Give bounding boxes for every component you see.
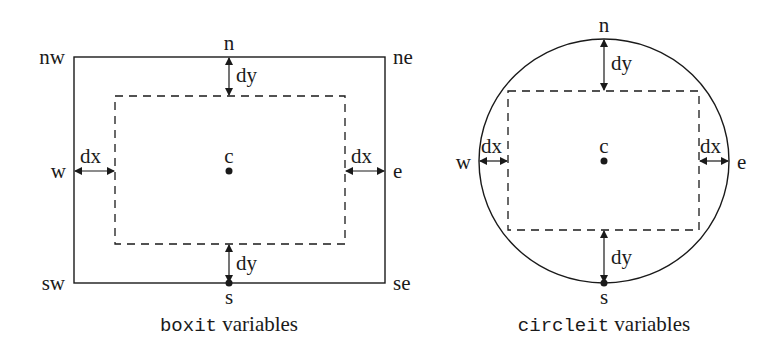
circleit-dx-right-label: dx — [700, 134, 722, 158]
boxit-caption-code: boxit — [160, 315, 217, 337]
circleit-caption-text: variables — [609, 312, 690, 336]
circleit-s-label: s — [600, 285, 608, 309]
circleit-n-label: n — [599, 13, 610, 37]
circleit-diagram: dy dy dx dx c n s w e circleit variables — [456, 13, 747, 337]
boxit-caption-text: variables — [217, 312, 298, 336]
boxit-dy-top-label: dy — [236, 63, 258, 87]
circleit-caption-code: circleit — [518, 315, 609, 337]
boxit-dy-bottom-label: dy — [236, 251, 258, 275]
circleit-dx-left-label: dx — [481, 134, 503, 158]
diagram-canvas: dy dy dx dx c n s w e nw ne sw se boxit … — [0, 0, 778, 355]
boxit-e-label: e — [393, 159, 402, 183]
boxit-w-label: w — [51, 159, 67, 183]
boxit-diagram: dy dy dx dx c n s w e nw ne sw se boxit … — [39, 31, 413, 337]
boxit-center-dot — [226, 168, 233, 175]
boxit-dx-left-label: dx — [80, 144, 102, 168]
circleit-e-label: e — [737, 150, 746, 174]
boxit-caption: boxit variables — [160, 312, 298, 337]
boxit-se-label: se — [393, 271, 411, 295]
circleit-caption: circleit variables — [518, 312, 690, 337]
boxit-s-label: s — [225, 285, 233, 309]
circleit-w-label: w — [456, 150, 472, 174]
circleit-dy-bottom-label: dy — [611, 245, 633, 269]
boxit-dx-right-label: dx — [351, 144, 373, 168]
boxit-ne-label: ne — [393, 45, 413, 69]
boxit-nw-label: nw — [39, 45, 66, 69]
circleit-center-dot — [601, 158, 608, 165]
boxit-n-label: n — [224, 31, 235, 55]
circleit-c-label: c — [599, 134, 608, 158]
boxit-sw-label: sw — [42, 271, 66, 295]
circleit-dy-top-label: dy — [611, 51, 633, 75]
boxit-c-label: c — [224, 144, 233, 168]
